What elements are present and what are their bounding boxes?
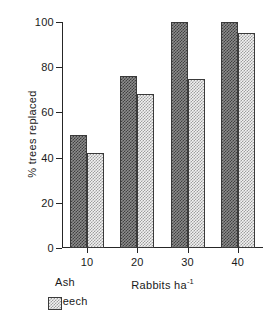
y-tick-label: 100 (35, 17, 54, 28)
y-tick-label: 80 (41, 62, 54, 73)
legend-label-ash: Ash (55, 276, 75, 288)
y-tick-mark (56, 22, 62, 23)
y-tick-label: 20 (41, 197, 54, 208)
x-tick-label: 40 (231, 257, 244, 268)
y-tick-label: 0 (48, 243, 54, 254)
legend-item-beech: Beech (48, 291, 88, 310)
y-tick-mark (56, 203, 62, 204)
bar-ash-30 (171, 22, 188, 248)
x-tick-mark (188, 248, 189, 253)
legend-item-ash: Ash (48, 272, 88, 291)
y-axis-line (62, 22, 63, 248)
x-tick-label: 10 (81, 257, 94, 268)
y-tick-label: 40 (41, 152, 54, 163)
x-axis-title-text: Rabbits ha (131, 279, 187, 291)
y-tick-mark (56, 248, 62, 249)
x-tick-mark (137, 248, 138, 253)
legend-swatch-beech (48, 297, 62, 310)
x-tick-label: 20 (131, 257, 144, 268)
x-tick-label: 30 (181, 257, 194, 268)
x-tick-mark (87, 248, 88, 253)
y-tick-mark (56, 158, 62, 159)
y-tick-mark (56, 112, 62, 113)
bar-beech-30 (188, 79, 205, 249)
bar-ash-40 (221, 22, 238, 248)
bar-chart-figure: % trees replaced 020406080100 10203040 R… (0, 0, 277, 324)
x-axis-title-exponent: -1 (187, 277, 194, 286)
bar-ash-20 (120, 76, 137, 248)
legend: Ash Beech (48, 272, 88, 310)
x-tick-mark (238, 248, 239, 253)
bar-beech-20 (137, 94, 154, 248)
y-axis-title: % trees replaced (26, 54, 38, 214)
bar-ash-10 (70, 135, 87, 248)
bar-beech-40 (238, 33, 255, 248)
x-axis-title: Rabbits ha-1 (62, 277, 263, 291)
bar-beech-10 (87, 153, 104, 248)
y-tick-label: 60 (41, 107, 54, 118)
plot-area: 020406080100 10203040 (62, 22, 263, 248)
y-tick-mark (56, 67, 62, 68)
